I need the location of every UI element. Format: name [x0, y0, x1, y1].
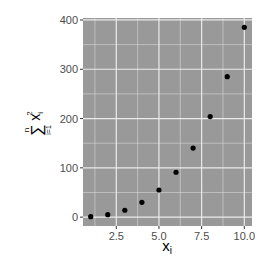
- x-axis-title: xi: [162, 237, 172, 256]
- y-axis-variable: xi2: [25, 111, 45, 121]
- data-point: [88, 214, 93, 219]
- x-tick-label: 2.5: [109, 230, 124, 242]
- data-point: [156, 187, 161, 192]
- data-point: [105, 212, 110, 217]
- y-tick-label: 400: [60, 14, 78, 26]
- panel-background: [83, 18, 252, 226]
- x-tick-label: 7.5: [194, 230, 209, 242]
- y-axis: 0100200300400: [60, 14, 83, 223]
- y-axis-title: ∑ n i=1 xi2: [22, 111, 52, 136]
- data-point: [225, 74, 230, 79]
- data-point: [242, 25, 247, 30]
- x-tick-label: 10.0: [234, 230, 255, 242]
- scatter-chart: 2.55.07.510.0 0100200300400 xi ∑ n i=1 x…: [0, 0, 267, 272]
- y-tick-label: 100: [60, 162, 78, 174]
- data-point: [208, 114, 213, 119]
- y-axis-sum-lower: i=1: [45, 125, 52, 135]
- data-point: [191, 146, 196, 151]
- y-axis-sum-upper: n: [22, 128, 31, 132]
- data-point: [139, 200, 144, 205]
- x-axis: 2.55.07.510.0: [109, 226, 255, 242]
- data-point: [173, 170, 178, 175]
- y-tick-label: 300: [60, 63, 78, 75]
- y-tick-label: 0: [72, 211, 78, 223]
- data-point: [122, 208, 127, 213]
- plot-panel: [83, 18, 252, 226]
- y-tick-label: 200: [60, 113, 78, 125]
